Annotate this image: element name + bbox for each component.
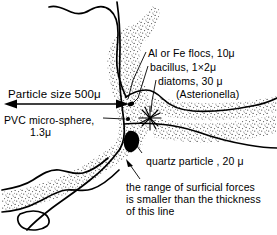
label-pvc-micro-sphere-size: 1.3μ [30, 126, 51, 138]
label-pvc-micro-sphere: PVC micro-sphere, [4, 114, 94, 126]
diatom-star-icon [139, 106, 161, 130]
label-bacillus: bacillus, 1×2μ [150, 61, 216, 73]
label-quartz-particle: quartz particle , 20 μ [146, 155, 244, 167]
quartz-blob-icon [124, 131, 139, 152]
double-headed-arrow-icon [4, 100, 129, 109]
label-particle-size: Particle size 500μ [8, 88, 101, 100]
label-al-or-fe-flocs: Al or Fe flocs, 10μ [148, 47, 235, 59]
label-asterionella: (Asterionella) [176, 88, 239, 100]
particle-surface-diagram: Particle size 500μ PVC micro-sphere, 1.3… [0, 0, 277, 235]
pvc-microsphere-dot-icon [126, 117, 130, 121]
label-surficial-forces-note: the range of surficial forces is smaller… [126, 181, 261, 218]
label-diatoms: diatoms, 30 μ [158, 75, 223, 87]
